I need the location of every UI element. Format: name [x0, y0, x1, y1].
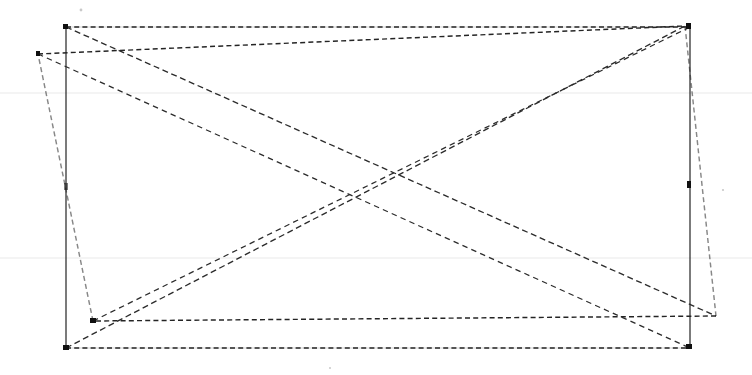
mark-bottom-left	[63, 345, 69, 350]
mark-right-midpoint	[687, 181, 691, 188]
speckle-2	[722, 189, 724, 191]
mark-dashed-bottom-left	[90, 318, 96, 323]
mark-left-midpoint	[64, 183, 68, 190]
scanned-figure-page	[0, 0, 752, 375]
mark-bottom-right	[686, 344, 692, 349]
speckle-3	[329, 367, 331, 369]
mark-top-left	[63, 24, 68, 29]
speckle-1	[80, 9, 83, 12]
figure-canvas	[0, 0, 752, 375]
mark-top-right	[686, 23, 691, 29]
mark-dashed-top-left	[36, 51, 40, 56]
